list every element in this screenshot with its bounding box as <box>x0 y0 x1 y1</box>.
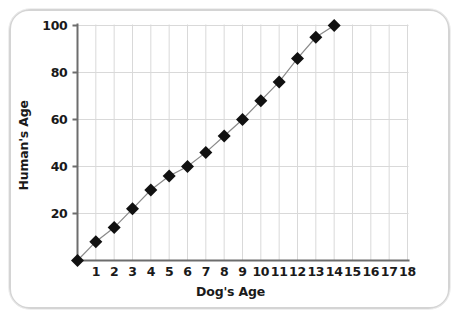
x-tick-label: 9 <box>238 264 246 279</box>
x-tick-label: 2 <box>110 264 118 279</box>
x-tick-label: 1 <box>92 264 100 279</box>
y-tick-label: 40 <box>51 159 68 174</box>
x-axis-title: Dog's Age <box>0 284 461 299</box>
y-axis-title: Human's Age <box>16 101 31 191</box>
y-tick-label: 100 <box>42 18 68 33</box>
x-tick-label: 5 <box>165 264 173 279</box>
x-tick-label: 17 <box>381 264 398 279</box>
x-tick-label: 18 <box>399 264 416 279</box>
x-tick-label: 12 <box>289 264 306 279</box>
chart-plot: 123456789101112131415161718 20406080100 <box>0 0 461 320</box>
x-tick-label: 14 <box>326 264 343 279</box>
x-tick-label: 4 <box>147 264 156 279</box>
x-tick-label: 6 <box>183 264 192 279</box>
chart-page: 123456789101112131415161718 20406080100 … <box>0 0 461 320</box>
data-point-marker <box>163 169 176 182</box>
data-point-marker <box>328 19 341 32</box>
gridlines <box>78 25 409 261</box>
x-tick-label: 3 <box>128 264 136 279</box>
y-tick-labels: 20406080100 <box>42 18 68 221</box>
x-tick-label: 10 <box>252 264 269 279</box>
x-tick-label: 13 <box>307 264 324 279</box>
x-tick-label: 11 <box>271 264 288 279</box>
y-tick-label: 60 <box>51 112 68 127</box>
x-tick-label: 16 <box>362 264 379 279</box>
y-tick-label: 80 <box>51 65 68 80</box>
data-point-marker <box>181 160 194 173</box>
x-tick-label: 8 <box>220 264 228 279</box>
x-tick-label: 7 <box>202 264 210 279</box>
y-tick-label: 20 <box>51 206 68 221</box>
x-tick-label: 15 <box>344 264 361 279</box>
x-tick-labels: 123456789101112131415161718 <box>92 264 416 279</box>
